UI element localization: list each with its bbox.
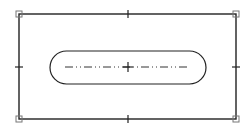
canvas-background — [0, 0, 252, 132]
cad-drawing-canvas — [0, 0, 252, 132]
